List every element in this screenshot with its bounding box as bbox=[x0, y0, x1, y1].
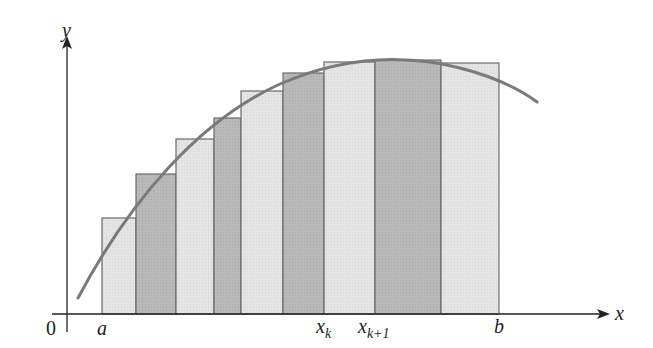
riemann-rectangle-3 bbox=[176, 139, 214, 314]
tick-label-xk: xk bbox=[316, 316, 331, 341]
plot-area bbox=[0, 0, 653, 348]
tick-label-a: a bbox=[97, 318, 107, 338]
tick-label-xk1: xk+1 bbox=[358, 316, 390, 341]
riemann-rectangles bbox=[102, 60, 499, 314]
riemann-rectangle-7 bbox=[324, 62, 375, 314]
riemann-rectangle-5 bbox=[241, 91, 283, 314]
riemann-rectangle-8 bbox=[375, 60, 441, 314]
xk-base: x bbox=[316, 315, 325, 337]
riemann-sum-diagram: y x 0 a xk xk+1 b bbox=[0, 0, 653, 348]
tick-label-b: b bbox=[494, 316, 504, 336]
xk1-subscript: k+1 bbox=[367, 326, 390, 341]
origin-label: 0 bbox=[46, 318, 56, 338]
riemann-rectangle-9 bbox=[441, 63, 499, 314]
x-axis-label: x bbox=[615, 303, 624, 323]
y-axis-label: y bbox=[62, 20, 71, 40]
xk1-base: x bbox=[358, 315, 367, 337]
riemann-rectangle-2 bbox=[136, 174, 176, 314]
xk-subscript: k bbox=[325, 326, 331, 341]
riemann-rectangle-6 bbox=[283, 73, 324, 314]
riemann-rectangle-4 bbox=[214, 118, 241, 314]
